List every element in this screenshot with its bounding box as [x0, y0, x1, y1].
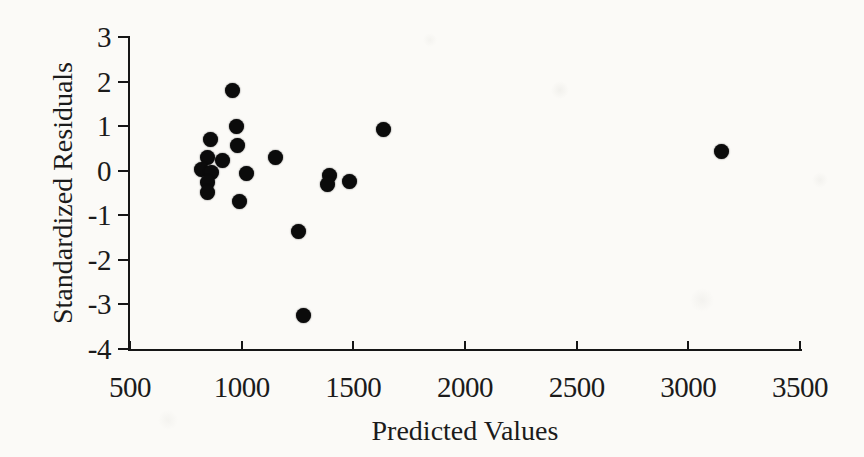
- data-point: [203, 132, 218, 147]
- x-tick-label: 1500: [308, 372, 398, 402]
- x-tick-label: 500: [85, 372, 175, 402]
- data-point: [320, 177, 335, 192]
- data-point: [200, 185, 215, 200]
- x-tick-label: 2500: [532, 372, 622, 402]
- data-point: [291, 224, 306, 239]
- x-tick-label: 3500: [755, 372, 845, 402]
- y-tick: [118, 214, 129, 216]
- data-point: [296, 308, 311, 323]
- x-tick: [129, 341, 131, 350]
- data-point: [215, 153, 230, 168]
- y-axis-title: Standardized Residuals: [48, 33, 78, 353]
- x-tick: [799, 341, 801, 350]
- data-point: [342, 174, 357, 189]
- y-tick: [118, 81, 129, 83]
- x-tick-label: 2000: [420, 372, 510, 402]
- x-tick: [352, 341, 354, 350]
- x-tick: [241, 341, 243, 350]
- y-tick: [118, 170, 129, 172]
- y-tick: [118, 348, 129, 350]
- data-point: [714, 144, 729, 159]
- y-tick: [118, 259, 129, 261]
- data-point: [225, 83, 240, 98]
- y-tick: [118, 303, 129, 305]
- x-tick: [576, 341, 578, 350]
- data-point: [232, 194, 247, 209]
- y-tick: [118, 125, 129, 127]
- data-point: [376, 122, 391, 137]
- data-point: [268, 150, 283, 165]
- residual-scatter-plot-figure: 3210-1-2-3-4500100015002000250030003500 …: [0, 0, 864, 457]
- data-point: [230, 138, 245, 153]
- x-tick-label: 1000: [197, 372, 287, 402]
- x-axis-title: Predicted Values: [305, 416, 625, 446]
- data-point: [229, 119, 244, 134]
- data-point: [239, 166, 254, 181]
- x-tick: [687, 341, 689, 350]
- x-tick: [464, 341, 466, 350]
- x-tick-label: 3000: [643, 372, 733, 402]
- y-tick: [118, 36, 129, 38]
